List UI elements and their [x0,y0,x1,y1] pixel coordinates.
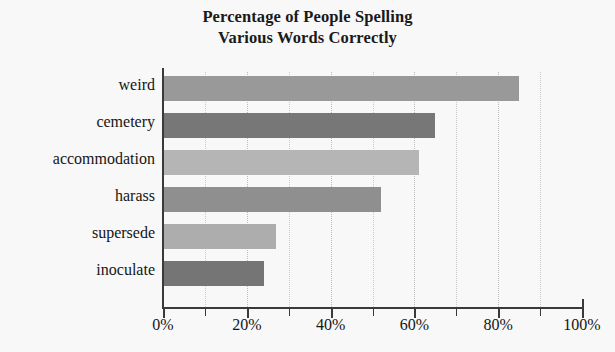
chart-title-line-2: Various Words Correctly [0,27,615,48]
x-axis-tick-label-80: 80% [484,314,513,336]
gridline-60 [414,72,416,307]
gridline-70 [456,72,458,307]
bar-supersede [163,224,276,249]
gridline-90 [540,72,542,307]
plot-area [163,72,582,307]
chart-title-line-1: Percentage of People Spelling [0,6,615,27]
x-axis-tick-labels: 0% 20% 40% 60% 80% 100% [163,314,582,344]
y-axis-label-cemetery: cemetery [0,109,155,134]
bar-accommodation [163,150,419,175]
x-axis-tick-label-60: 60% [400,314,429,336]
y-axis-label-supersede: supersede [0,220,155,245]
chart-title: Percentage of People Spelling Various Wo… [0,6,615,48]
y-axis-label-inoculate: inoculate [0,257,155,282]
bar-cemetery [163,113,435,138]
x-axis-tick-label-20: 20% [232,314,261,336]
x-axis-tick-label-0: 0% [152,314,173,336]
y-axis-label-accommodation: accommodation [0,146,155,171]
bar-weird [163,76,519,101]
x-axis-tick-label-100: 100% [563,314,600,336]
y-axis-label-harass: harass [0,183,155,208]
y-axis-line [162,68,164,307]
gridline-80 [498,72,500,307]
y-axis-label-weird: weird [0,72,155,97]
x-axis-endcap [582,299,584,309]
bar-chart-figure: Percentage of People Spelling Various Wo… [0,0,615,352]
bar-inoculate [163,261,264,286]
y-axis-category-labels: weird cemetery accommodation harass supe… [0,72,155,307]
bar-harass [163,187,381,212]
x-axis-tick-label-40: 40% [316,314,345,336]
